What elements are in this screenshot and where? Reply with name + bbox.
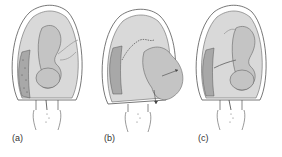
panel-label-c: (c) — [198, 133, 209, 143]
panel-b: (b) — [94, 0, 188, 157]
panel-label-b: (b) — [104, 133, 115, 143]
panel-label-a: (a) — [12, 133, 23, 143]
panel-c: (c) — [188, 0, 282, 157]
panel-a: (a) — [0, 0, 94, 157]
